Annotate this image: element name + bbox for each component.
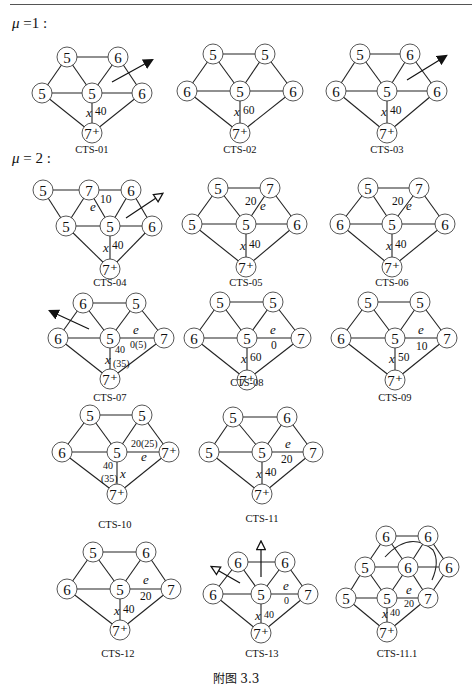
vertex-node: 7⁺ — [251, 623, 271, 643]
diagrams-group: 565567⁺x40CTS-01556567⁺x60CTS-02566567⁺x… — [32, 44, 459, 659]
edge-symbol-label: e — [406, 582, 412, 597]
vertex-node: 6 — [418, 526, 438, 546]
edge-value-label: 60 — [250, 351, 262, 363]
edge-value-label: 60 — [243, 104, 255, 116]
edge-symbol-label: x — [119, 466, 126, 481]
vertex-node: 5 — [126, 293, 146, 313]
vertex-degree: 7⁺ — [109, 487, 125, 503]
vertex-node: 7 — [437, 328, 457, 348]
vertex-degree: 5 — [116, 582, 124, 598]
vertex-degree: 7 — [304, 587, 312, 603]
vertex-node: 5 — [208, 178, 228, 198]
vertex-node: 5 — [80, 405, 100, 425]
diagram-cts-06: 576567⁺20ex40CTS-06 — [330, 178, 455, 288]
vertex-node: 5 — [255, 44, 275, 64]
vertex-degree: 5 — [39, 183, 47, 199]
vertex-degree: 6 — [289, 84, 297, 100]
vertex-node: 5 — [132, 405, 152, 425]
vertex-degree: 7 — [160, 331, 168, 347]
diagram-cts-04: 5765567⁺e10x40CTS-04 — [33, 180, 162, 288]
diagram-caption: CTS-09 — [378, 392, 411, 403]
vertex-degree: 6 — [148, 219, 156, 235]
vertex-node: 6 — [121, 180, 141, 200]
vertex-degree: 6 — [337, 331, 345, 347]
vertex-degree: 5 — [243, 331, 251, 347]
vertex-degree: 6 — [114, 50, 122, 66]
vertex-node: 6 — [398, 557, 418, 577]
vertex-node: 6 — [177, 81, 197, 101]
diagram-cts-01: 565567⁺x40CTS-01 — [32, 47, 152, 155]
vertex-node: 7 — [409, 178, 429, 198]
edge-value-label: 40 — [112, 239, 124, 251]
edge-value-label: 20 — [404, 598, 414, 609]
edge-symbol-label: x — [113, 603, 120, 618]
edge-value-label: 0(5) — [130, 339, 147, 351]
vertex-degree: 7 — [85, 183, 93, 199]
diagram-cts-11: 565577⁺e20x40CTS-11 — [199, 407, 323, 524]
diagram-cts-09: 556577⁺e10x50CTS-09 — [331, 292, 457, 403]
vertex-node: 6 — [376, 526, 396, 546]
vertex-node: 7 — [260, 178, 280, 198]
edge-symbol-label: e — [90, 199, 96, 214]
vertex-degree: 5 — [383, 591, 391, 607]
vertex-degree: 5 — [62, 219, 70, 235]
vertex-degree: 7 — [424, 591, 432, 607]
vertex-degree: 6 — [63, 582, 71, 598]
vertex-node: 6 — [228, 552, 248, 572]
edge-value-label: 40 — [249, 238, 261, 250]
vertex-degree: 5 — [356, 47, 364, 63]
vertex-node: 7 — [154, 328, 174, 348]
vertex-node: 5 — [32, 83, 52, 103]
edge-symbol-label: x — [255, 466, 262, 481]
vertex-degree: 6 — [445, 560, 453, 576]
edge-value-label: (35) — [113, 358, 130, 370]
diagram-canvas: 565567⁺x40CTS-01556567⁺x60CTS-02566567⁺x… — [0, 0, 472, 695]
vertex-node: 7⁺ — [82, 123, 102, 143]
vertex-node: 7 — [79, 180, 99, 200]
diagram-cts-13: 666577⁺e0x40CTS-13 — [203, 542, 318, 659]
diagram-caption: CTS-07 — [93, 392, 126, 403]
vertex-degree: 5 — [388, 217, 396, 233]
vertex-node: 5 — [100, 216, 120, 236]
vertex-degree: 7 — [443, 331, 451, 347]
diagram-cts-07: 656577⁺e0(5)40x(35)CTS-07 — [48, 293, 174, 403]
diagram-caption: CTS-11 — [246, 513, 279, 524]
vertex-node: 5 — [210, 292, 230, 312]
vertex-degree: 7⁺ — [387, 373, 403, 389]
vertex-node: 7 — [298, 584, 318, 604]
diagram-caption: CTS-01 — [75, 144, 108, 155]
diagram-cts-12: 566577⁺e20x40CTS-12 — [57, 542, 181, 659]
vertex-degree: 5 — [416, 295, 424, 311]
vertex-degree: 7⁺ — [232, 126, 248, 142]
vertex-node: 5 — [358, 292, 378, 312]
edge-symbol-label: x — [388, 351, 395, 366]
vertex-node: 5 — [83, 542, 103, 562]
diagram-caption: CTS-06 — [375, 277, 408, 288]
vertex-node: 5 — [56, 216, 76, 236]
vertex-node: 5 — [410, 292, 430, 312]
vertex-node: 5 — [350, 44, 370, 64]
diagram-cts-10: 55657⁺7⁺20(25)e40(35)xCTS-10 — [52, 405, 179, 530]
vertex-degree: 5 — [132, 296, 140, 312]
edge-value-label: 20 — [245, 195, 257, 207]
vertex-degree: 7 — [415, 181, 423, 197]
vertex-degree: 5 — [214, 181, 222, 197]
vertex-degree: 7⁺ — [84, 126, 100, 142]
vertex-degree: 7 — [309, 445, 317, 461]
vertex-degree: 5 — [364, 295, 372, 311]
vertex-degree: 5 — [229, 410, 237, 426]
diagram-caption: CTS-08 — [230, 377, 263, 388]
vertex-node: 5 — [252, 442, 272, 462]
vertex-degree: 5 — [89, 545, 97, 561]
vertex-node: 5 — [203, 44, 223, 64]
vertex-node: 6 — [275, 552, 295, 572]
vertex-node: 5 — [263, 292, 283, 312]
vertex-degree: 6 — [293, 217, 301, 233]
vertex-node: 7⁺ — [100, 259, 120, 279]
edge-symbol-label: x — [381, 606, 388, 621]
edge-symbol-label: x — [254, 608, 261, 623]
vertex-degree: 5 — [261, 47, 269, 63]
edge-symbol-label: e — [260, 198, 266, 213]
vertex-degree: 6 — [404, 560, 412, 576]
edge-value-label: (35) — [101, 473, 118, 485]
